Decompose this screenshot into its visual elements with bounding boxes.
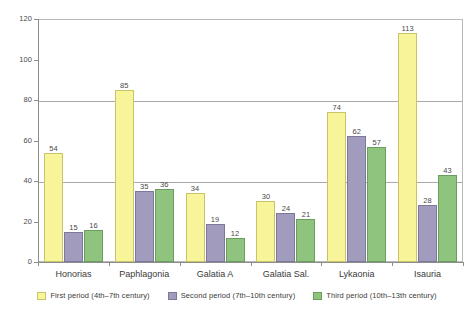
legend-swatch <box>313 292 322 300</box>
bar-group: 541516 <box>44 0 103 262</box>
y-tick-label: 100 <box>6 55 32 64</box>
chart-legend: First period (4th–7th century)Second per… <box>0 291 474 300</box>
bar[interactable]: 12 <box>226 238 245 262</box>
bar-value-label: 35 <box>140 182 149 191</box>
bar-group: 1132843 <box>398 0 457 262</box>
bar[interactable]: 34 <box>186 193 205 262</box>
bar-value-label: 62 <box>352 127 361 136</box>
bar-value-label: 24 <box>282 204 291 213</box>
bar[interactable]: 54 <box>44 153 63 262</box>
bar[interactable]: 24 <box>276 213 295 262</box>
bar-value-label: 85 <box>120 81 129 90</box>
bar-value-label: 28 <box>423 196 432 205</box>
bar[interactable]: 85 <box>115 90 134 262</box>
bar-value-label: 19 <box>211 215 220 224</box>
legend-item[interactable]: Second period (7th–10th century) <box>168 291 296 300</box>
bar[interactable]: 30 <box>256 201 275 262</box>
bar-group: 341912 <box>186 0 245 262</box>
bar-value-label: 54 <box>49 144 58 153</box>
bar[interactable]: 35 <box>135 191 154 262</box>
bar-value-label: 113 <box>401 24 413 33</box>
bar-value-label: 57 <box>372 138 381 147</box>
bar-value-label: 21 <box>302 210 311 219</box>
legend-item[interactable]: First period (4th–7th century) <box>37 291 149 300</box>
y-tick-mark <box>34 60 38 61</box>
bar-value-label: 43 <box>443 166 452 175</box>
bar[interactable]: 62 <box>347 136 366 262</box>
bar-chart: 020406080100120 First period (4th–7th ce… <box>0 0 474 316</box>
y-tick-mark <box>34 222 38 223</box>
bar-value-label: 16 <box>89 221 98 230</box>
bar-value-label: 36 <box>160 180 169 189</box>
y-tick-label: 0 <box>6 257 32 266</box>
x-tick-mark <box>38 262 39 266</box>
legend-swatch <box>168 292 177 300</box>
bar[interactable]: 16 <box>84 230 103 262</box>
bar-group: 746257 <box>327 0 386 262</box>
y-tick-label: 60 <box>6 136 32 145</box>
bar-group: 853536 <box>115 0 174 262</box>
x-tick-label: Paphlagonia <box>119 269 169 279</box>
y-tick-label: 40 <box>6 176 32 185</box>
bar-value-label: 74 <box>332 103 341 112</box>
y-tick-mark <box>34 100 38 101</box>
x-tick-mark <box>109 262 110 266</box>
y-axis-line <box>38 19 39 262</box>
x-tick-label: Honorias <box>55 269 91 279</box>
bar[interactable]: 19 <box>206 224 225 262</box>
bar-value-label: 34 <box>191 184 200 193</box>
y-tick-label: 20 <box>6 217 32 226</box>
y-tick-mark <box>34 19 38 20</box>
y-tick-label: 80 <box>6 95 32 104</box>
bar[interactable]: 15 <box>64 232 83 262</box>
x-tick-label: Isauria <box>414 269 441 279</box>
y-axis-labels: 020406080100120 <box>0 0 32 316</box>
legend-label: First period (4th–7th century) <box>50 291 149 300</box>
x-tick-label: Galatia Sal. <box>263 269 310 279</box>
y-tick-label: 120 <box>6 14 32 23</box>
bar-group: 302421 <box>256 0 315 262</box>
bar[interactable]: 43 <box>438 175 457 262</box>
bar[interactable]: 74 <box>327 112 346 262</box>
bar-value-label: 15 <box>69 223 78 232</box>
x-tick-label: Lykaonia <box>339 269 375 279</box>
x-tick-mark <box>321 262 322 266</box>
bar[interactable]: 28 <box>418 205 437 262</box>
bar-value-label: 30 <box>262 192 271 201</box>
legend-item[interactable]: Third period (10th–13th century) <box>313 291 436 300</box>
bar-value-label: 12 <box>231 229 240 238</box>
legend-label: Second period (7th–10th century) <box>181 291 296 300</box>
x-tick-mark <box>251 262 252 266</box>
y-tick-mark <box>34 141 38 142</box>
bar[interactable]: 57 <box>367 147 386 262</box>
x-tick-label: Galatia A <box>197 269 234 279</box>
x-tick-mark <box>463 262 464 266</box>
bar[interactable]: 113 <box>398 33 417 262</box>
legend-swatch <box>37 292 46 300</box>
x-tick-mark <box>180 262 181 266</box>
bar[interactable]: 21 <box>296 219 315 262</box>
bar[interactable]: 36 <box>155 189 174 262</box>
legend-label: Third period (10th–13th century) <box>326 291 436 300</box>
x-tick-mark <box>392 262 393 266</box>
y-tick-mark <box>34 181 38 182</box>
